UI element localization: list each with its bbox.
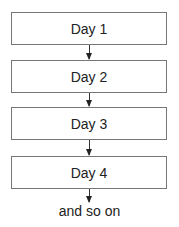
node-day-1: Day 1	[11, 12, 167, 45]
continuation-caption: and so on	[0, 203, 179, 219]
node-label: Day 1	[71, 21, 108, 37]
arrow-down-icon	[89, 140, 90, 155]
node-label: Day 2	[71, 69, 108, 85]
node-day-3: Day 3	[11, 107, 167, 140]
node-label: Day 3	[71, 116, 108, 132]
arrow-down-icon	[89, 93, 90, 106]
node-label: Day 4	[71, 165, 108, 181]
node-day-2: Day 2	[11, 60, 167, 93]
arrow-down-icon	[89, 189, 90, 202]
node-day-4: Day 4	[11, 156, 167, 189]
arrow-down-icon	[89, 45, 90, 59]
